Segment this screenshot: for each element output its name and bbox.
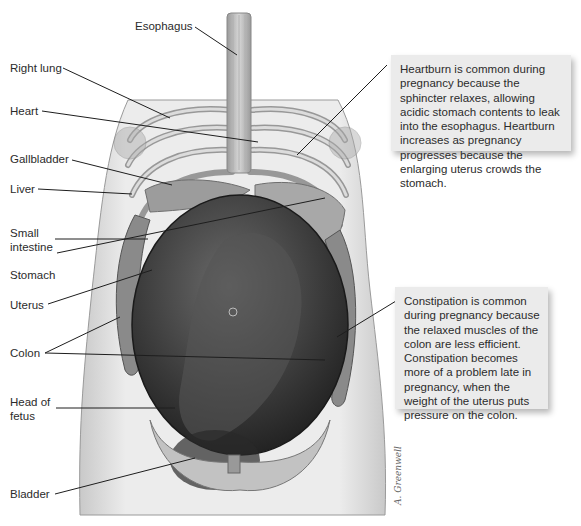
label-uterus: Uterus (10, 298, 44, 312)
callout-constipation: Constipation is common during pregnancy … (395, 287, 548, 409)
label-liver: Liver (10, 182, 35, 196)
label-gallbladder: Gallbladder (10, 152, 69, 166)
right-breast-outline (114, 127, 146, 159)
label-right-lung: Right lung (10, 61, 62, 75)
label-colon: Colon (10, 346, 40, 360)
label-small-intestine: Small intestine (10, 226, 53, 254)
bladder-shape (228, 455, 240, 473)
label-bladder: Bladder (10, 487, 50, 501)
left-breast-outline (329, 127, 361, 159)
callout-heartburn: Heartburn is common during pregnancy bec… (391, 55, 571, 151)
artist-signature: A. Greenwell (393, 446, 403, 505)
label-heart: Heart (10, 104, 38, 118)
label-head-of-fetus: Head of fetus (10, 395, 50, 423)
label-esophagus: Esophagus (135, 19, 193, 33)
label-stomach: Stomach (10, 268, 55, 282)
